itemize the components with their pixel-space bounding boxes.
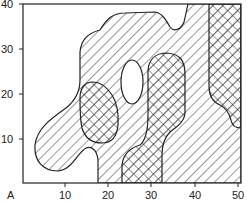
y-tick-label: 20	[1, 88, 13, 100]
x-tick-label: 30	[145, 189, 157, 201]
hatched-region-diagram: 40 30 20 10 10 20 30 40 50 A	[0, 0, 247, 204]
x-tick-label: 50	[232, 189, 244, 201]
x-tick-label: 40	[189, 189, 201, 201]
x-tick-label: 20	[102, 189, 114, 201]
unhatched-hole	[121, 60, 143, 104]
x-tick-label: 10	[59, 189, 71, 201]
x-axis	[65, 183, 238, 187]
panel-label: A	[7, 189, 15, 201]
y-tick-label: 30	[1, 43, 13, 55]
y-tick-label: 40	[1, 0, 13, 10]
y-tick-label: 10	[1, 133, 13, 145]
